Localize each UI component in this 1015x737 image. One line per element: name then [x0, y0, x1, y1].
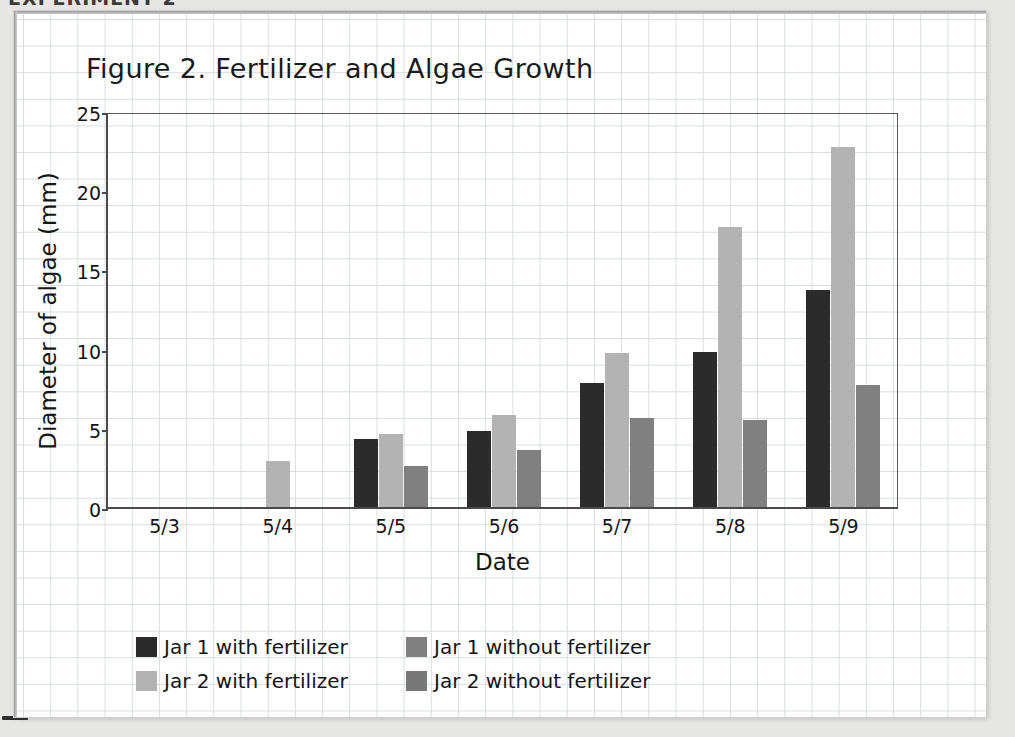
legend-item[interactable]: Jar 1 without fertilizer: [406, 635, 686, 659]
bar: [831, 147, 855, 507]
y-axis-tick-label: 25: [77, 103, 101, 125]
bar-group: [221, 114, 334, 507]
legend-swatch-icon: [406, 637, 427, 657]
bar: [580, 383, 604, 507]
y-axis-tick-mark: [102, 430, 108, 432]
y-axis-tick-label: 5: [89, 419, 101, 441]
legend-item[interactable]: Jar 1 with fertilizer: [136, 635, 406, 659]
x-axis-tick-label: 5/6: [489, 515, 520, 537]
legend-swatch-icon: [406, 671, 427, 691]
legend-label: Jar 2 without fertilizer: [434, 669, 650, 693]
bar: [693, 352, 717, 507]
legend-label: Jar 1 without fertilizer: [434, 635, 650, 659]
legend-label: Jar 1 with fertilizer: [164, 635, 348, 659]
bar: [630, 418, 654, 507]
legend-swatch-icon: [136, 671, 157, 691]
bar: [266, 461, 290, 507]
y-axis-tick-label: 0: [89, 499, 101, 521]
x-axis-tick-label: 5/3: [149, 515, 180, 537]
y-axis-tick-label: 15: [77, 261, 101, 283]
bar: [467, 431, 491, 507]
y-axis-tick-mark: [102, 271, 108, 273]
plot-area: Diameter of algae (mm) Date 05101520255/…: [106, 113, 898, 509]
x-axis-tick-label: 5/9: [828, 515, 859, 537]
x-axis-tick-label: 5/7: [602, 515, 633, 537]
graph-paper-sheet: Figure 2. Fertilizer and Algae Growth Di…: [14, 11, 986, 717]
bar: [718, 227, 742, 507]
y-axis-tick-mark: [102, 509, 108, 511]
bar-group: [561, 114, 674, 507]
bar-group: [787, 114, 900, 507]
x-axis-tick-label: 5/4: [262, 515, 293, 537]
bar-chart: Figure 2. Fertilizer and Algae Growth Di…: [14, 11, 986, 717]
bar-group: [674, 114, 787, 507]
x-axis-tick-label: 5/8: [715, 515, 746, 537]
legend-item[interactable]: Jar 2 without fertilizer: [406, 669, 686, 693]
legend-swatch-icon: [136, 637, 157, 657]
bar: [354, 439, 378, 507]
bar-group: [334, 114, 447, 507]
bar: [517, 450, 541, 507]
y-axis-tick-label: 10: [77, 340, 101, 362]
bar: [856, 385, 880, 507]
y-axis-tick-mark: [102, 113, 108, 115]
bar: [404, 466, 428, 507]
x-axis-label: Date: [475, 549, 530, 575]
scanned-page: EXPERIMENT 2 Figure 2. Fertilizer and Al…: [0, 0, 1015, 737]
bar: [492, 415, 516, 507]
chart-legend: Jar 1 with fertilizerJar 1 without ferti…: [136, 635, 686, 693]
bar: [806, 290, 830, 507]
page-header-text: EXPERIMENT 2: [8, 0, 177, 9]
plot-inner: [108, 114, 897, 507]
legend-label: Jar 2 with fertilizer: [164, 669, 348, 693]
legend-item[interactable]: Jar 2 with fertilizer: [136, 669, 406, 693]
y-axis-tick-mark: [102, 351, 108, 353]
bar: [743, 420, 767, 507]
bar-group: [447, 114, 560, 507]
y-axis-tick-label: 20: [77, 182, 101, 204]
bar-group: [108, 114, 221, 507]
y-axis-label: Diameter of algae (mm): [35, 172, 61, 450]
y-axis-tick-mark: [102, 192, 108, 194]
bar: [605, 353, 629, 507]
x-axis-tick-label: 5/5: [376, 515, 407, 537]
chart-title: Figure 2. Fertilizer and Algae Growth: [86, 53, 593, 84]
page-header-strip: EXPERIMENT 2: [0, 0, 1015, 10]
bar: [379, 434, 403, 507]
